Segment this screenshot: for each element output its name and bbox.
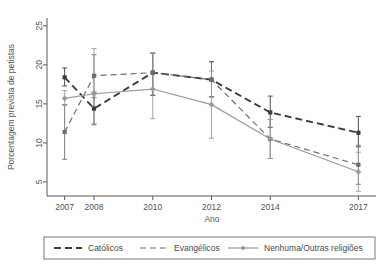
data-point-marker (209, 78, 213, 82)
data-point-marker (268, 110, 272, 114)
y-tick-label: 25 (34, 21, 44, 31)
y-tick-label: 20 (34, 60, 44, 70)
chart-figure: 510152025 200720082010201220142017 Porce… (0, 0, 382, 272)
x-tick-label: 2017 (349, 202, 368, 212)
legend-label: Católicos (88, 243, 123, 253)
data-point-marker (356, 131, 360, 135)
x-tick-label: 2007 (55, 202, 74, 212)
x-tick-label: 2012 (202, 202, 221, 212)
x-axis-title: Ano (204, 214, 219, 224)
legend-content: CatólicosEvangélicosNenhuma/Outras relig… (54, 243, 363, 253)
data-point-marker (151, 71, 155, 75)
data-point-marker (356, 163, 360, 167)
data-point-marker (63, 130, 67, 134)
data-point-marker (92, 74, 96, 78)
data-point-marker (63, 75, 67, 79)
x-tick-label: 2014 (261, 202, 280, 212)
legend-label: Evangélicos (174, 243, 220, 253)
legend-label: Nenhuma/Outras religiões (264, 243, 363, 253)
data-point-marker (92, 106, 96, 110)
x-tick-label: 2008 (85, 202, 104, 212)
x-tick-label: 2010 (143, 202, 162, 212)
y-axis-title: Porcentagem prevista de petistas (6, 44, 16, 170)
line-chart: 510152025 200720082010201220142017 Porce… (0, 0, 382, 272)
y-tick-label: 5 (34, 179, 44, 184)
y-tick-label: 10 (34, 138, 44, 148)
chart-background (0, 0, 382, 272)
y-tick-label: 15 (34, 99, 44, 109)
